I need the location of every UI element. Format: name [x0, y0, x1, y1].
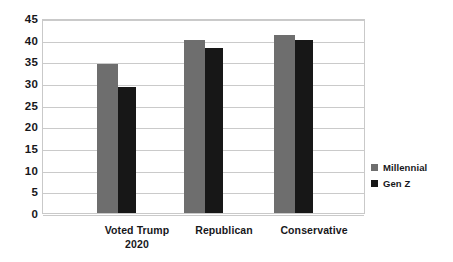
x-axis-category-label-line: 2020 [77, 238, 197, 252]
legend-swatch-icon [371, 164, 378, 171]
y-axis-tick-label: 10 [4, 166, 38, 177]
bar-chart: 454035302520151050 Voted Trump2020Republ… [0, 0, 453, 262]
bar-millennial [184, 40, 205, 213]
gridline [43, 215, 364, 216]
bar-millennial [274, 35, 295, 213]
y-axis-tick-label: 35 [4, 57, 38, 68]
legend: MillennialGen Z [371, 160, 427, 192]
y-axis-tick-label: 25 [4, 101, 38, 112]
y-axis-tick-label: 20 [4, 122, 38, 133]
plot-area [42, 19, 365, 214]
y-axis-tick-label: 15 [4, 144, 38, 155]
bar-gen-z [118, 87, 136, 213]
y-axis-tick-label: 0 [4, 209, 38, 220]
legend-swatch-icon [371, 180, 378, 187]
bar-gen-z [295, 40, 313, 213]
x-axis-category-label-line: Conservative [254, 224, 374, 238]
x-axis-category-label: Conservative [254, 224, 374, 238]
legend-item[interactable]: Millennial [371, 160, 427, 174]
y-axis-tick-label: 30 [4, 79, 38, 90]
y-axis-tick-label: 45 [4, 14, 38, 25]
bar-group [274, 18, 313, 213]
legend-item-label: Gen Z [383, 178, 410, 189]
bar-group [184, 18, 223, 213]
y-axis: 454035302520151050 [0, 0, 38, 262]
legend-item[interactable]: Gen Z [371, 176, 427, 190]
bar-millennial [97, 64, 118, 214]
y-axis-tick-label: 5 [4, 187, 38, 198]
legend-item-label: Millennial [383, 162, 427, 173]
bar-group [97, 18, 136, 213]
bar-gen-z [205, 48, 223, 213]
y-axis-tick-label: 40 [4, 36, 38, 47]
